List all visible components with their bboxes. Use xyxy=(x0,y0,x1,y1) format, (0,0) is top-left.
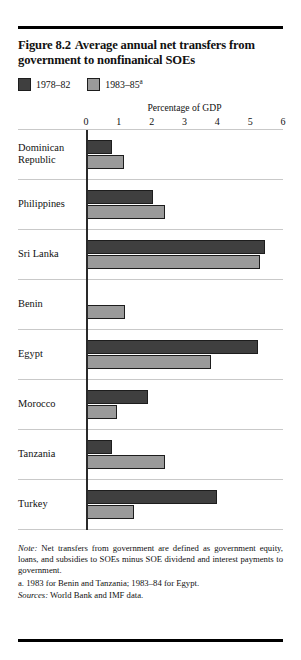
chart-row: Philippines xyxy=(18,180,283,230)
bar-1978-82 xyxy=(86,240,265,254)
category-label: Philippines xyxy=(18,180,86,229)
bar-1978-82 xyxy=(86,190,153,204)
figure-title: Figure 8.2Average annual net transfers f… xyxy=(18,38,283,69)
chart-row: Benin xyxy=(18,280,283,330)
zero-axis-line xyxy=(86,130,88,530)
bar-1983-85 xyxy=(86,355,211,369)
category-label: Sri Lanka xyxy=(18,230,86,279)
bar-pair xyxy=(86,180,283,229)
chart-legend: 1978–82 1983–85a xyxy=(18,78,283,91)
bar-1983-85 xyxy=(86,255,260,269)
bottom-rule xyxy=(18,639,283,642)
chart-plot-area: Percentage of GDP 0123456 Dominican Repu… xyxy=(18,102,283,530)
bar-1983-85 xyxy=(86,205,165,219)
bar-pair xyxy=(86,480,283,529)
top-rule xyxy=(18,26,283,29)
x-tick-label: 0 xyxy=(84,116,89,127)
chart-row: Egypt xyxy=(18,330,283,380)
legend-item-1983-85: 1983–85a xyxy=(87,78,143,91)
x-tick-label: 4 xyxy=(215,116,220,127)
bar-pair xyxy=(86,280,283,329)
category-label: Benin xyxy=(18,280,86,329)
note-paragraph: Note: Net transfers from government are … xyxy=(18,543,283,577)
bar-1978-82 xyxy=(86,340,258,354)
legend-footnote-marker: a xyxy=(140,77,143,85)
bar-grid: Dominican RepublicPhilippinesSri LankaBe… xyxy=(18,129,283,530)
bar-1983-85 xyxy=(86,505,134,519)
x-tick-label: 6 xyxy=(281,116,286,127)
figure-notes: Note: Net transfers from government are … xyxy=(18,543,283,602)
sources-text: World Bank and IMF data. xyxy=(48,590,143,600)
x-tick-label: 2 xyxy=(149,116,154,127)
figure-panel: Figure 8.2Average annual net transfers f… xyxy=(0,0,301,660)
chart-row: Turkey xyxy=(18,480,283,530)
sources-lead: Sources: xyxy=(18,590,48,600)
x-tick-label: 5 xyxy=(248,116,253,127)
bar-1978-82 xyxy=(86,390,148,404)
chart-row: Morocco xyxy=(18,380,283,430)
chart-row: Sri Lanka xyxy=(18,230,283,280)
bar-1983-85 xyxy=(86,305,125,319)
note-footnote-a: a. 1983 for Benin and Tanzania; 1983–84 … xyxy=(18,578,283,589)
category-label: Dominican Republic xyxy=(18,130,86,179)
bar-pair xyxy=(86,230,283,279)
bar-1978-82 xyxy=(86,140,112,154)
category-label: Tanzania xyxy=(18,430,86,479)
bar-pair xyxy=(86,380,283,429)
category-label: Turkey xyxy=(18,480,86,529)
bar-1983-85 xyxy=(86,155,124,169)
note-text: Net transfers from government are define… xyxy=(18,543,283,576)
bar-1983-85 xyxy=(86,405,117,419)
legend-swatch-1983-85 xyxy=(87,78,100,91)
bar-1978-82 xyxy=(86,440,112,454)
bar-1978-82 xyxy=(86,490,217,504)
legend-label-1978-82: 1978–82 xyxy=(36,79,70,90)
chart-row: Tanzania xyxy=(18,430,283,480)
figure-number: Figure 8.2 xyxy=(18,38,71,52)
x-axis-ticks: 0123456 xyxy=(86,116,283,129)
legend-label-1983-85: 1983–85a xyxy=(105,79,143,90)
legend-item-1978-82: 1978–82 xyxy=(18,78,70,91)
note-lead: Note: xyxy=(18,543,37,553)
bar-1983-85 xyxy=(86,455,165,469)
x-tick-label: 1 xyxy=(116,116,121,127)
bar-pair xyxy=(86,130,283,179)
x-tick-label: 3 xyxy=(182,116,187,127)
category-label: Morocco xyxy=(18,380,86,429)
chart-row: Dominican Republic xyxy=(18,130,283,180)
legend-swatch-1978-82 xyxy=(18,78,31,91)
category-label: Egypt xyxy=(18,330,86,379)
x-axis-title: Percentage of GDP xyxy=(86,102,283,113)
bar-pair xyxy=(86,330,283,379)
bar-pair xyxy=(86,430,283,479)
note-sources: Sources: World Bank and IMF data. xyxy=(18,590,283,601)
